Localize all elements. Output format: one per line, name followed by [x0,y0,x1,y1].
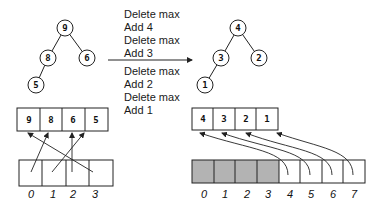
index-label: 3 [92,188,99,200]
svg-text:1: 1 [202,80,207,90]
array-cell: 2 [243,114,248,124]
tree-node: 4 [230,20,246,36]
right-storage-array [192,160,365,183]
svg-text:2: 2 [256,53,261,63]
operation-step: Add 2 [124,78,180,91]
operation-step: Delete max [124,91,180,104]
tree-node: 2 [251,50,267,66]
operation-step: Add 1 [124,104,180,117]
left-storage-array [19,160,113,186]
svg-text:8: 8 [45,53,50,63]
operation-step: Delete max [124,65,180,78]
array-cell: 6 [70,115,75,125]
index-label: 7 [351,188,358,200]
right-index-labels: 0 1 2 3 4 5 6 7 [201,188,358,200]
operations-group-1: Delete max Add 4 Delete max Add 3 [124,8,180,60]
left-heap-array: 9 8 6 5 [17,108,108,131]
operations-list: Delete max Add 4 Delete max Add 3 Delete… [124,8,180,117]
tree-node: 5 [28,77,44,93]
index-label: 5 [308,188,315,200]
svg-text:5: 5 [33,80,38,90]
array-cell: 5 [93,115,98,125]
tree-node: 1 [197,77,213,93]
array-cell: 3 [221,114,226,124]
tree-node: 3 [213,50,229,66]
operation-step: Delete max [124,34,180,47]
right-tree: 4 3 2 1 [197,20,267,93]
index-label: 3 [265,188,272,200]
index-label: 1 [50,188,56,200]
svg-text:6: 6 [84,53,89,63]
heap-diagram: 9 8 6 5 4 3 2 [0,0,381,207]
array-cell: 9 [26,115,31,125]
array-cell: 8 [48,115,53,125]
index-label: 1 [222,188,228,200]
left-index-labels: 0 1 2 3 [28,188,99,200]
svg-text:4: 4 [235,23,241,33]
array-cell: 4 [200,114,206,124]
index-label: 0 [201,188,208,200]
tree-node: 8 [40,50,56,66]
index-label: 2 [243,188,250,200]
operation-step: Delete max [124,8,180,21]
array-cell: 1 [264,114,269,124]
index-label: 0 [28,188,35,200]
operation-step: Add 4 [124,21,180,34]
svg-text:9: 9 [62,23,67,33]
tree-node: 6 [79,50,95,66]
left-tree: 9 8 6 5 [28,20,95,93]
operation-step: Add 3 [124,47,180,60]
index-label: 2 [69,188,76,200]
operations-group-2: Delete max Add 2 Delete max Add 1 [124,65,180,117]
tree-node: 9 [57,20,73,36]
right-result-array: 4 3 2 1 [192,108,278,130]
index-label: 6 [330,188,337,200]
svg-text:3: 3 [218,53,223,63]
index-label: 4 [287,188,293,200]
